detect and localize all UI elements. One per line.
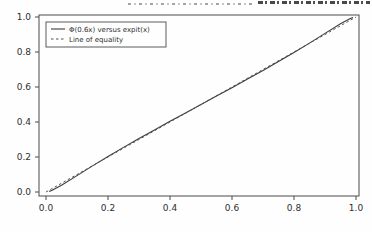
figure-page: 0.00.20.40.60.81.0 0.00.20.40.60.81.0 Φ(… [0, 0, 372, 232]
x-tick-label: 0.0 [39, 203, 54, 213]
legend: Φ(0.6x) versus expit(x) Line of equality [46, 22, 166, 47]
x-tick-label: 0.4 [163, 203, 178, 213]
y-tick-label: 0.2 [17, 152, 31, 162]
y-axis: 0.00.20.40.60.81.0 [17, 12, 39, 197]
y-tick-label: 0.8 [17, 47, 32, 57]
y-tick-label: 0.4 [17, 117, 32, 127]
cropped-header-remnant [0, 0, 372, 7]
cropped-text-dark-segment [258, 1, 370, 4]
x-tick-label: 0.8 [287, 203, 302, 213]
x-tick-label: 0.2 [101, 203, 115, 213]
y-tick-label: 0.6 [17, 82, 32, 92]
x-tick-label: 1.0 [349, 203, 364, 213]
x-axis: 0.00.20.40.60.81.0 [39, 196, 364, 213]
y-tick-label: 1.0 [17, 12, 32, 22]
y-tick-label: 0.0 [17, 187, 32, 197]
pp-plot-chart: 0.00.20.40.60.81.0 0.00.20.40.60.81.0 Φ(… [0, 0, 372, 232]
legend-label-equality: Line of equality [69, 36, 123, 44]
cropped-text-light-segment [128, 3, 254, 5]
legend-label-curve: Φ(0.6x) versus expit(x) [69, 26, 150, 34]
x-tick-label: 0.6 [225, 203, 240, 213]
